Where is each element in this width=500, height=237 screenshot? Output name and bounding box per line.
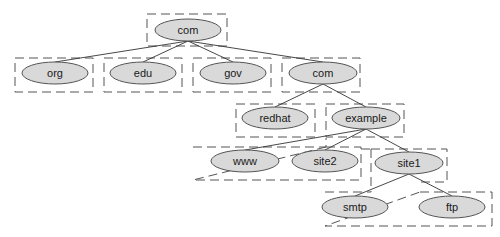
node-redhat: redhat xyxy=(242,107,308,129)
node-label: com xyxy=(313,67,334,79)
tree-nodes: comorgedugovcomredhatexamplewwwsite2site… xyxy=(22,19,485,218)
node-ftp: ftp xyxy=(419,196,485,218)
node-site2: site2 xyxy=(292,150,358,172)
node-com: com xyxy=(289,62,357,84)
node-label: site2 xyxy=(313,155,336,167)
node-label: site1 xyxy=(397,157,420,169)
edge-site1-to-smtp xyxy=(355,174,409,196)
node-gov: gov xyxy=(200,62,266,84)
node-example: example xyxy=(332,107,400,129)
edge-root-com-to-com xyxy=(188,41,323,62)
node-smtp: smtp xyxy=(322,196,388,218)
node-org: org xyxy=(22,62,88,84)
node-site1: site1 xyxy=(375,152,443,174)
node-label: redhat xyxy=(259,112,290,124)
dns-hierarchy-diagram: comorgedugovcomredhatexamplewwwsite2site… xyxy=(0,0,500,237)
node-root-com: com xyxy=(155,19,221,41)
node-label: example xyxy=(345,112,387,124)
node-label: ftp xyxy=(446,201,458,213)
node-label: gov xyxy=(224,67,242,79)
node-www: www xyxy=(211,150,279,172)
node-label: www xyxy=(232,155,257,167)
edge-site1-to-ftp xyxy=(409,174,452,196)
node-label: com xyxy=(178,24,199,36)
node-label: org xyxy=(47,67,63,79)
node-edu: edu xyxy=(110,62,176,84)
edge-root-com-to-org xyxy=(55,41,188,62)
node-label: edu xyxy=(134,67,152,79)
node-label: smtp xyxy=(343,201,367,213)
